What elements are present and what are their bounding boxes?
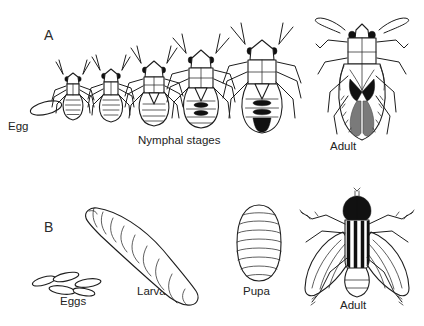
panel-b-eggs-illustration: [31, 270, 101, 297]
panel-a-egg-illustration: [29, 98, 63, 118]
panel-a-nymph-3-illustration: [125, 46, 183, 126]
panel-b-larva-illustration: [86, 208, 198, 305]
panel-b-pupa-illustration: [237, 205, 281, 281]
panel-a-nymph-1-illustration: [52, 60, 94, 120]
panel-a-nymph-5-illustration: [223, 23, 301, 133]
panel-a-adult-bug-illustration: [315, 18, 408, 140]
panel-b-adult-fly-illustration: [300, 188, 414, 305]
insect-life-cycle-figure: A Egg Nymphal stages Adult B Eggs Larva …: [0, 0, 424, 326]
